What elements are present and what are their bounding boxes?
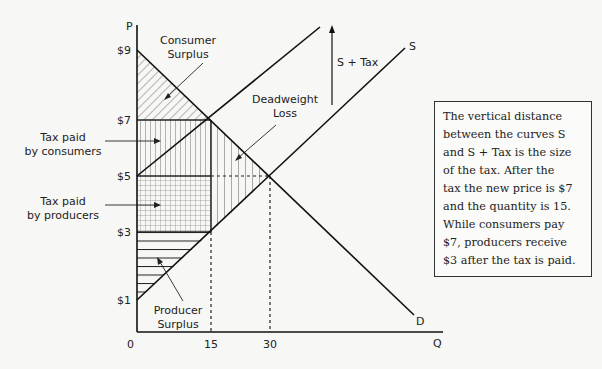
tick-x15: 15	[204, 338, 218, 351]
note-line: $7, producers receive	[443, 234, 591, 252]
tick-y9: $9	[117, 44, 131, 57]
tick-y1: $1	[117, 294, 131, 307]
tick-y5: $5	[117, 170, 131, 183]
label-d: D	[416, 315, 424, 328]
tick-y3: $3	[117, 226, 131, 239]
tax-diagram: P Q 0 $9 $7 $5 $3 $1 15 30 S D S + Tax C…	[0, 0, 602, 369]
axis-label-p: P	[126, 20, 133, 33]
note-line: and the quantity is 15.	[443, 198, 591, 216]
note-line: $3 after the tax is paid.	[443, 252, 591, 270]
axis-label-q: Q	[433, 337, 442, 350]
note-line: of the tax. After the	[443, 162, 591, 180]
pointer-deadweight-loss	[235, 125, 276, 161]
label-tax-producers-2: by producers	[27, 209, 99, 222]
label-producer-surplus-1: Producer	[154, 304, 203, 317]
tax-producers-region	[137, 176, 211, 232]
note-line: and S + Tax is the size	[443, 144, 591, 162]
label-deadweight-2: Loss	[273, 107, 297, 120]
note-line: While consumers pay	[443, 216, 591, 234]
explanation-box: The vertical distance between the curves…	[434, 101, 592, 277]
label-consumer-surplus-2: Surplus	[167, 48, 208, 61]
label-tax-consumers-2: by consumers	[24, 145, 101, 158]
label-producer-surplus-2: Surplus	[157, 318, 198, 331]
origin-label: 0	[127, 338, 134, 351]
note-line: between the curves S	[443, 126, 591, 144]
tax-arrow	[329, 25, 335, 105]
tick-x30: 30	[263, 338, 277, 351]
note-line: The vertical distance	[443, 108, 591, 126]
label-s: S	[409, 40, 416, 53]
label-tax-producers-1: Tax paid	[39, 195, 85, 208]
label-consumer-surplus-1: Consumer	[160, 34, 217, 47]
label-s-plus-tax: S + Tax	[337, 56, 379, 69]
note-line: tax the new price is $7	[443, 180, 591, 198]
label-tax-consumers-1: Tax paid	[39, 131, 85, 144]
tick-y7: $7	[117, 114, 131, 127]
label-deadweight-1: Deadweight	[252, 93, 319, 106]
